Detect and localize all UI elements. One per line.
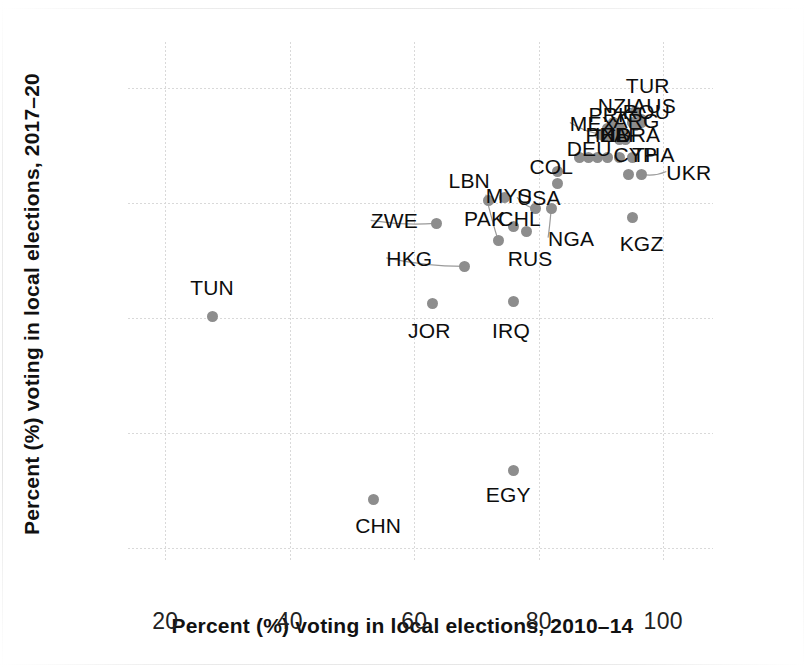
data-point-marker[interactable] xyxy=(508,465,519,476)
gridline-vertical xyxy=(539,42,540,560)
x-axis-tick-label: 40 xyxy=(250,608,330,635)
x-axis-tick-label: 20 xyxy=(125,608,205,635)
data-point-label: USA xyxy=(517,187,561,208)
data-point-label: TUR xyxy=(626,75,670,96)
data-point-label: IRQ xyxy=(492,320,530,341)
gridline-vertical xyxy=(414,42,415,560)
data-point-marker[interactable] xyxy=(427,298,438,309)
x-axis-tick-label: 80 xyxy=(499,608,579,635)
gridline-vertical xyxy=(290,42,291,560)
gridline-horizontal xyxy=(128,203,713,204)
x-axis-tick-label: 100 xyxy=(623,608,703,635)
data-point-label: UKR xyxy=(666,162,711,183)
scan-edge-top xyxy=(0,8,805,9)
data-point-marker[interactable] xyxy=(493,235,504,246)
data-point-marker[interactable] xyxy=(627,212,638,223)
gridline-vertical xyxy=(165,42,166,560)
data-point-marker[interactable] xyxy=(636,169,647,180)
scan-edge-bottom xyxy=(0,664,805,665)
data-point-label: KGZ xyxy=(620,233,664,254)
data-point-marker[interactable] xyxy=(431,218,442,229)
data-point-label: TUN xyxy=(190,277,234,298)
scatter-plot-area: 20406080100 20406080100 TUNCHNEGYJORIRQH… xyxy=(128,42,713,560)
data-point-label: CHN xyxy=(355,515,401,536)
data-point-label: CHL xyxy=(498,208,541,229)
data-point-label: ZWE xyxy=(371,210,418,231)
data-point-label: AUS xyxy=(632,95,676,116)
gridline-horizontal xyxy=(128,548,713,549)
data-point-label: RUS xyxy=(508,248,553,269)
data-point-marker[interactable] xyxy=(508,296,519,307)
data-point-label: LBN xyxy=(449,170,490,191)
data-point-label: JOR xyxy=(408,320,451,341)
x-axis-tick-label: 60 xyxy=(374,608,454,635)
scan-edge-left xyxy=(2,0,3,668)
data-point-marker[interactable] xyxy=(368,494,379,505)
y-axis-title: Percent (%) voting in local elections, 2… xyxy=(20,24,44,584)
data-point-marker[interactable] xyxy=(623,169,634,180)
data-point-marker[interactable] xyxy=(207,311,218,322)
gridline-horizontal xyxy=(128,433,713,434)
data-point-label: EGY xyxy=(486,484,531,505)
data-point-label: NGA xyxy=(548,228,594,249)
data-point-label: BRA xyxy=(617,124,661,145)
data-point-label: HKG xyxy=(386,248,432,269)
scan-edge-right xyxy=(803,0,804,668)
data-point-marker[interactable] xyxy=(459,261,470,272)
